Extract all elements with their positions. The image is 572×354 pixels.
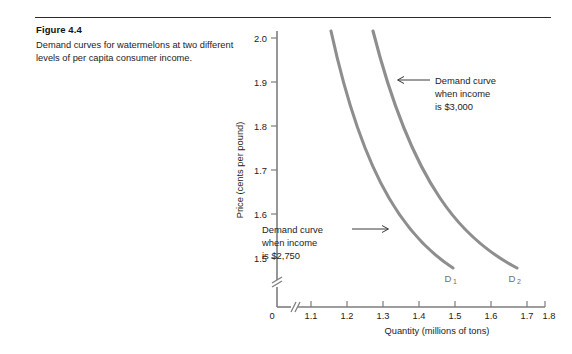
x-tick-label: 1.1: [305, 311, 318, 321]
y-tick-label: 1.6: [254, 210, 267, 220]
x-tick-label: 1.4: [413, 311, 426, 321]
curve-label-d1: D 1: [445, 273, 458, 285]
y-tick-label: 1.8: [254, 122, 267, 132]
annotation-d1-line-2: when income: [261, 237, 317, 248]
x-tick-label: 1.3: [377, 311, 390, 321]
y-tick-label: 1.7: [254, 166, 267, 176]
annotation-d1-line-1: Demand curve: [262, 224, 323, 235]
demand-curve-d2: [373, 31, 517, 268]
x-tick-label: 1.8: [543, 311, 556, 321]
y-tick-label: 2.0: [254, 34, 267, 44]
annotation-d1: Demand curve when income is $2,750: [261, 224, 389, 261]
curve-label-d1-text: D: [445, 273, 452, 284]
x-tick-label: 1.5: [449, 311, 462, 321]
curve-label-d1-subscript: 1: [453, 278, 457, 285]
y-tick-label: 1.9: [254, 78, 267, 88]
annotation-d2-line-1: Demand curve: [435, 75, 496, 86]
x-tick-label: 1.6: [485, 311, 498, 321]
annotation-d2: Demand curve when income is $3,000: [398, 75, 496, 112]
x-axis-ticks: [311, 301, 545, 307]
curve-label-d2: D 2: [509, 273, 522, 285]
figure-page: Figure 4.4 Demand curves for watermelons…: [0, 0, 572, 354]
y-axis-title: Price (cents per pound): [235, 122, 245, 219]
annotation-d2-line-3: is $3,000: [435, 101, 473, 112]
origin-label: 0: [269, 311, 274, 321]
annotation-d1-line-3: is $2,750: [262, 250, 300, 261]
curve-label-d2-text: D: [509, 273, 516, 284]
x-axis-title: Quantity (millions of tons): [385, 326, 490, 336]
demand-curve-chart: 2.0 1.9 1.8 1.7 1.6 1.5 0 Price (cents p…: [0, 0, 572, 354]
x-tick-label: 1.7: [521, 311, 534, 321]
x-axis-tick-labels: 1.1 1.2 1.3 1.4 1.5 1.6 1.7 1.8: [305, 311, 556, 321]
annotation-d2-line-2: when income: [434, 88, 490, 99]
demand-curve-d1: [331, 31, 453, 268]
x-tick-label: 1.2: [341, 311, 354, 321]
curve-label-d2-subscript: 2: [517, 278, 521, 285]
